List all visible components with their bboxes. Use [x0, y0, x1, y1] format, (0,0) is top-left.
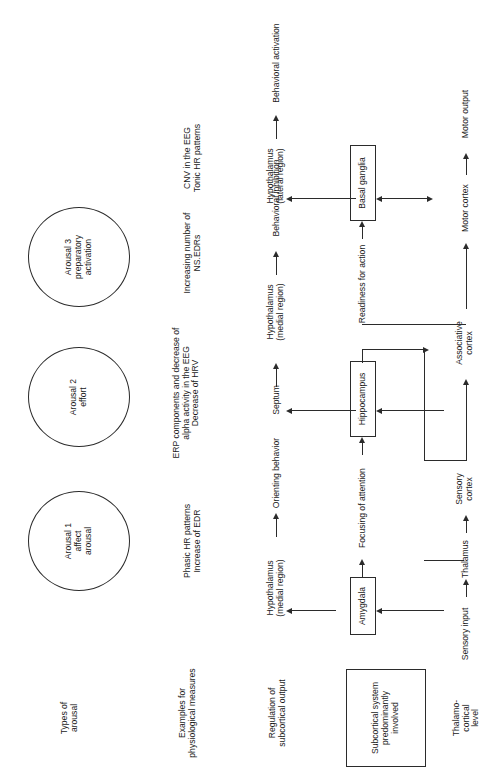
arrow-motorcortex-to-motoroutput-head [463, 153, 469, 159]
node-associative-cortex: Associative cortex [455, 307, 474, 379]
associative-branch-vertical [424, 324, 466, 325]
arrow-thalamus-to-sensorycortex-head [463, 515, 469, 521]
node-sensory-input: Sensory input [461, 597, 471, 671]
hippocampus-feedback-horizontal [362, 349, 363, 363]
arrow-hypo1-to-orienting-line [276, 517, 277, 537]
node-behavioral-activation: Behavioral activation [272, 7, 282, 119]
node-readiness-for-action: Readiness for action [358, 229, 368, 339]
arrow-sensoryinput-to-thalamus-line [466, 583, 467, 597]
row-label-types: Types of arousal [60, 673, 79, 763]
arrow-focusing-to-hippocampus-head [359, 437, 365, 443]
arrow-hippocampus-to-septum-head [286, 408, 292, 414]
node-hypothalamus-medial-1: Hypothalamus (medial region) [266, 541, 285, 635]
node-hypothalamus-lateral: Hypothalamus (lateral region) [266, 129, 285, 223]
box-subcortical-system: Subcortical system predominantly involve… [346, 669, 426, 767]
thalamus-riser [424, 560, 464, 561]
arrow-hypolat-to-activation-line [276, 119, 277, 139]
arrow-sensorycortex-to-associative-head [463, 379, 469, 385]
arrow-associative-to-motorcortex-line [466, 247, 467, 309]
row-label-measures: Examples for physiological measures [178, 653, 197, 773]
sensorycortex-branch-vertical [424, 460, 466, 461]
arrow-hypolat-to-activation-head [273, 115, 279, 121]
box-basal-ganglia: Basal ganglia [350, 145, 376, 221]
node-motor-cortex: Motor cortex [461, 173, 471, 243]
ellipse-arousal-2: Arousal 2 effort [28, 347, 130, 447]
arrow-readiness-to-basalganglia-head [359, 221, 365, 227]
arrow-readiness-to-basalganglia-line [362, 225, 363, 239]
row-label-regulation: Regulation of subcortical output [268, 661, 287, 765]
arrow-basalganglia-motorcortex-head-up [376, 196, 382, 202]
node-orienting-behavior: Orienting behavior [272, 425, 282, 521]
node-sensory-cortex: Sensory cortex [455, 459, 474, 519]
arrow-motorcortex-to-motoroutput-line [466, 157, 467, 175]
ellipse-arousal-1: Arousal 1 affect arousal [28, 491, 130, 591]
arrow-amygdala-to-hypo1-line [290, 610, 336, 611]
node-motor-output: Motor output [461, 77, 471, 151]
arrow-basalganglia-to-hypolat-line [290, 198, 356, 199]
measure-1: Phasic HR patterns Increase of EDR [183, 479, 202, 603]
measure-4: CNV in the EEG Tonic HR patterns [183, 103, 202, 213]
readiness-path-vertical [362, 324, 424, 325]
arrow-hypo1-to-orienting-head [273, 513, 279, 519]
hippocampus-feedback-vertical [362, 349, 424, 350]
node-focusing-of-attention: Focusing of attention [358, 455, 368, 561]
arrow-thalamus-to-amygdala-head [376, 608, 382, 614]
arrow-sensorycortex-to-associative-line [466, 383, 467, 461]
arrow-focusing-to-hippocampus-line [362, 441, 363, 455]
arrow-associative-to-hippocampus-head [376, 408, 382, 414]
measure-2: ERP components and decrease of alpha act… [172, 313, 201, 473]
arrow-amygdala-to-focusing-line [362, 563, 363, 577]
arrow-associative-to-hippocampus-line [380, 410, 444, 411]
arrow-basalganglia-to-hypolat-head [286, 196, 292, 202]
arrow-associative-to-motorcortex-head [463, 243, 469, 249]
arrow-hippocampus-to-septum-line [290, 410, 356, 411]
arrow-sensoryinput-to-thalamus-head [463, 579, 469, 585]
arrow-hypo2-to-inhibition-line [276, 255, 277, 275]
arrow-hypo2-to-inhibition-head [273, 251, 279, 257]
arrow-thalamus-to-sensorycortex-line [466, 519, 467, 533]
arrow-septum-to-hypo2-line [276, 367, 277, 387]
arrow-septum-to-hypo2-head [273, 363, 279, 369]
box-hippocampus: Hippocampus [350, 361, 376, 437]
ellipse-arousal-3: Arousal 3 preparatory activation [28, 207, 130, 307]
arrow-thalamus-to-amygdala-line [380, 610, 444, 611]
arrow-amygdala-to-focusing-head [359, 559, 365, 565]
node-hypothalamus-medial-2: Hypothalamus (medial region) [266, 265, 285, 359]
arrow-amygdala-to-hypo1-head [286, 608, 292, 614]
sensorycortex-branch-horizontal [424, 349, 425, 461]
box-amygdala: Amygdala [350, 577, 376, 635]
row-label-thalamo: Thalamo- cortical level [452, 675, 481, 761]
arrow-basalganglia-motorcortex-line [380, 198, 428, 199]
arrow-basalganglia-motorcortex-head-down [427, 196, 433, 202]
